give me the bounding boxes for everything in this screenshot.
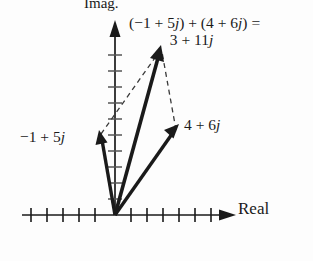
vector-4-plus-6j-label: 4 + 6j xyxy=(184,116,220,133)
imag-axis-arrowhead xyxy=(110,20,121,37)
vector-resultant-3-plus-11j xyxy=(115,45,164,215)
dashed-line-v2-to-sum xyxy=(162,52,176,130)
dashed-line-v1-to-sum xyxy=(101,52,159,134)
real-axis-label: Real xyxy=(238,200,269,219)
sum-equation-line2: 3 + 11j xyxy=(129,31,260,48)
sum-equation-line1: (−1 + 5j) + (4 + 6j) = xyxy=(129,14,260,31)
real-axis-arrowhead xyxy=(219,210,236,221)
sum-equation-annotation: (−1 + 5j) + (4 + 6j) = 3 + 11j xyxy=(129,14,260,48)
vector-4-plus-6j xyxy=(115,124,179,215)
vector-minus1-plus-5j xyxy=(96,130,116,215)
imag-axis-label: Imag. xyxy=(84,0,119,12)
vector-minus1-plus-5j-label: −1 + 5j xyxy=(20,128,65,145)
